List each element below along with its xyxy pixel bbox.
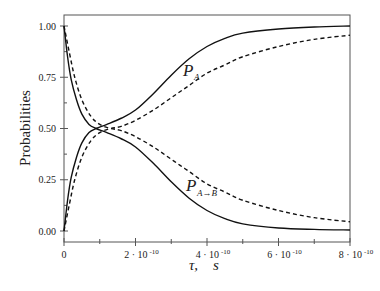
curve-label-pa: P A (182, 61, 200, 82)
y-tick-label: 0.75 (39, 72, 57, 83)
y-tick-label: 1.00 (39, 21, 57, 32)
curve-label-pa-sub: A (193, 72, 200, 82)
y-tick-label: 0.50 (39, 123, 57, 134)
x-tick-label: 0 (62, 249, 67, 260)
x-axis-title-unit: s (213, 257, 219, 273)
curve-label-pab-main: P (185, 176, 196, 195)
x-tick-label: 8 · 10 -10 (339, 248, 374, 260)
curve-label-pa-main: P (182, 61, 193, 80)
data-series (64, 26, 350, 231)
x-tick-label: 6 · 10 -10 (267, 248, 302, 260)
y-tick-label: 0.00 (39, 226, 57, 237)
y-axis-title: Probabilities (17, 90, 33, 166)
x-tick-label: 2 · 10 -10 (124, 248, 159, 260)
series-line-0 (64, 26, 350, 231)
curve-label-pab: P A→B (185, 176, 217, 198)
x-axis-title-tau: τ, (189, 257, 198, 273)
y-tick-label: 0.25 (39, 174, 57, 185)
plot-frame (64, 15, 350, 242)
curve-label-pab-sub: A→B (196, 188, 217, 198)
probability-chart: 0.000.250.500.751.00 02 · 10 -104 · 10 -… (0, 0, 380, 291)
